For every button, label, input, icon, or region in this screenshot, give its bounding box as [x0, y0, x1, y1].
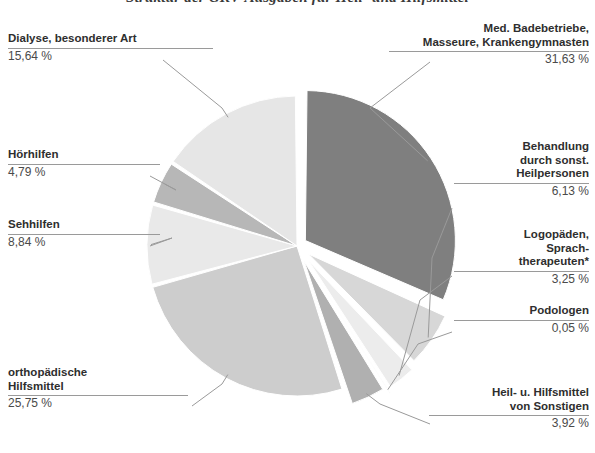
callout-orthopaedische-hilfsmittel-value: 25,75 %: [8, 397, 188, 411]
callout-dialyse: Dialyse, besonderer Art 15,64 %: [8, 32, 213, 63]
callout-behandlung-heilpersonen: Behandlung durch sonst. Heilpersonen 6,1…: [454, 140, 589, 198]
callout-orthopaedische-hilfsmittel: orthopädische Hilfsmittel 25,75 %: [8, 366, 188, 411]
callout-dialyse-label: Dialyse, besonderer Art: [8, 32, 213, 46]
callout-sehhilfen-value: 8,84 %: [8, 236, 160, 250]
callout-podologen-value: 0,05 %: [454, 322, 589, 336]
callout-sonstige-value: 3,92 %: [429, 417, 589, 431]
callout-orthopaedische-hilfsmittel-label: orthopädische Hilfsmittel: [8, 366, 188, 393]
callout-sonstige-label: Heil- u. Hilfsmittel von Sonstigen: [429, 386, 589, 413]
callout-sonstige: Heil- u. Hilfsmittel von Sonstigen 3,92 …: [429, 386, 589, 431]
leader-line: [163, 60, 228, 117]
callout-logopaeden-value: 3,25 %: [454, 273, 589, 287]
callout-badebetriebe: Med. Badebetriebe, Masseure, Krankengymn…: [389, 22, 589, 67]
callout-hoerhilfen-value: 4,79 %: [8, 166, 160, 180]
callout-logopaeden: Logopäden, Sprach- therapeuten* 3,25 %: [454, 228, 589, 286]
callout-badebetriebe-label: Med. Badebetriebe, Masseure, Krankengymn…: [389, 22, 589, 49]
callout-sehhilfen: Sehhilfen 8,84 %: [8, 218, 160, 249]
leader-line: [366, 394, 430, 424]
callout-badebetriebe-value: 31,63 %: [389, 53, 589, 67]
callout-hoerhilfen: Hörhilfen 4,79 %: [8, 148, 160, 179]
leader-line: [192, 375, 228, 406]
callout-logopaeden-label: Logopäden, Sprach- therapeuten*: [454, 228, 589, 269]
callout-behandlung-heilpersonen-value: 6,13 %: [454, 185, 589, 199]
callout-dialyse-value: 15,64 %: [8, 50, 213, 64]
callout-podologen: Podologen 0,05 %: [454, 304, 589, 335]
callout-podologen-label: Podologen: [454, 304, 589, 318]
callout-behandlung-heilpersonen-label: Behandlung durch sonst. Heilpersonen: [454, 140, 589, 181]
callout-hoerhilfen-label: Hörhilfen: [8, 148, 160, 162]
callout-sehhilfen-label: Sehhilfen: [8, 218, 160, 232]
